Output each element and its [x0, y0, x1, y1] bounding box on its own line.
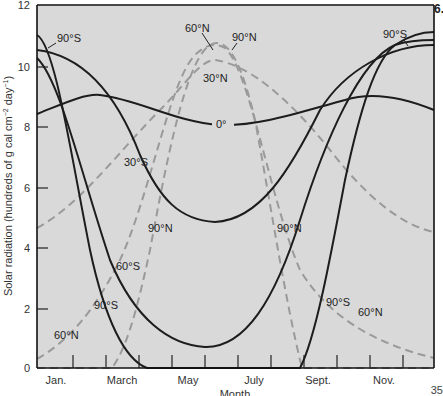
label-90S-bottom-right: 90°S: [326, 296, 350, 308]
label-90S-top-left: 90°S: [57, 32, 81, 44]
y-tick-12: 12: [18, 0, 30, 11]
label-60N-bottom-left: 60°N: [54, 329, 79, 341]
label-30N-top: 30°N: [203, 72, 228, 84]
solar-radiation-chart: 12 10 8 6 4 2 0 Jan. March May July Sept…: [0, 0, 443, 396]
y-tick-8: 8: [24, 121, 30, 133]
y-tick-6: 6: [24, 182, 30, 194]
label-90N-left: 90°N: [148, 222, 173, 234]
x-label-may: May: [178, 374, 199, 386]
panel-label: 6.: [434, 2, 443, 16]
y-tick-2: 2: [24, 303, 30, 315]
label-30S: 30°S: [124, 156, 148, 168]
x-label-jan: Jan.: [46, 374, 67, 386]
x-label-sept: Sept.: [305, 374, 331, 386]
label-90N-top: 90°N: [232, 31, 257, 43]
x-axis-title: Month: [220, 388, 251, 396]
label-90N-right: 90°N: [277, 222, 302, 234]
page-number: 35: [431, 384, 443, 396]
x-label-nov: Nov.: [373, 374, 395, 386]
label-60N-bottom-right: 60°N: [358, 306, 383, 318]
x-label-july: July: [244, 374, 264, 386]
label-0deg: 0°: [216, 118, 227, 130]
label-60S: 60°S: [116, 260, 140, 272]
y-tick-10: 10: [18, 61, 30, 73]
label-90S-top-right: 90°S: [383, 28, 407, 40]
label-60N-top: 60°N: [185, 22, 210, 34]
y-axis-title: Solar radiation (hundreds of g cal cm−2 …: [2, 76, 14, 296]
label-90S-bottom-left: 90°S: [94, 299, 118, 311]
y-tick-0: 0: [24, 362, 30, 374]
y-tick-4: 4: [24, 242, 30, 254]
x-label-march: March: [107, 374, 138, 386]
